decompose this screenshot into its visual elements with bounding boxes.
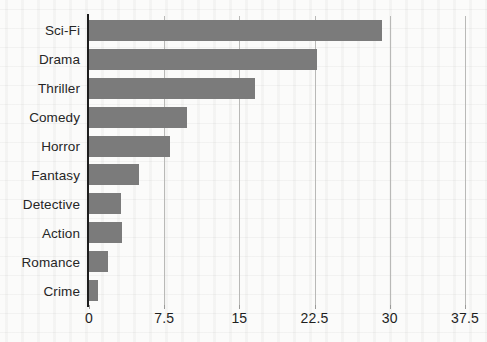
y-label-drama: Drama [0, 52, 80, 67]
x-tick-label-37.5: 37.5 [451, 310, 479, 326]
bar-thriller [89, 78, 255, 99]
y-label-action: Action [0, 225, 80, 240]
y-axis-category-labels: Sci-FiDramaThrillerComedyHorrorFantasyDe… [0, 16, 80, 305]
x-tick-15 [239, 305, 240, 309]
bar-action [89, 222, 122, 243]
x-tick-label-7.5: 7.5 [154, 310, 174, 326]
x-tick-30 [390, 305, 391, 309]
x-tick-0 [89, 305, 90, 309]
bar-detective [89, 193, 121, 214]
x-tick-22.5 [315, 305, 316, 309]
bar-chart-plot-area: Sci-FiDramaThrillerComedyHorrorFantasyDe… [0, 0, 487, 342]
y-label-crime: Crime [0, 283, 80, 298]
bar-crime [89, 280, 98, 301]
y-label-fantasy: Fantasy [0, 167, 80, 182]
y-label-sci-fi: Sci-Fi [0, 23, 80, 38]
chart-page: Sci-FiDramaThrillerComedyHorrorFantasyDe… [0, 0, 487, 342]
bar-drama [89, 49, 317, 70]
bar-comedy [89, 107, 187, 128]
x-tick-label-22.5: 22.5 [301, 310, 329, 326]
x-tick-label-15: 15 [231, 310, 247, 326]
x-tick-7.5 [164, 305, 165, 309]
y-label-thriller: Thriller [0, 81, 80, 96]
x-tick-label-30: 30 [382, 310, 398, 326]
bar-fantasy [89, 164, 139, 185]
bar-sci-fi [89, 20, 382, 41]
y-label-comedy: Comedy [0, 110, 80, 125]
bar-romance [89, 251, 108, 272]
y-label-detective: Detective [0, 196, 80, 211]
bar-series [89, 16, 487, 305]
y-label-romance: Romance [0, 254, 80, 269]
x-tick-37.5 [465, 305, 466, 309]
x-tick-label-0: 0 [85, 310, 93, 326]
bar-horror [89, 136, 170, 157]
y-label-horror: Horror [0, 139, 80, 154]
